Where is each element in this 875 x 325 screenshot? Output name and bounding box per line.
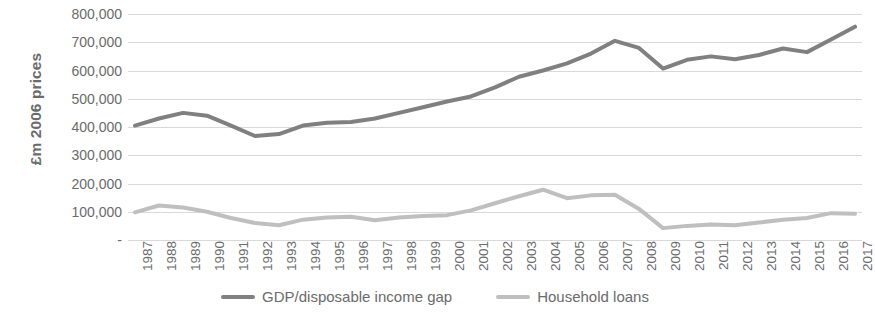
y-axis-tick-label: 800,000 [48,6,122,22]
x-axis-tick-label: 1998 [404,241,419,289]
x-axis-tick-label: 1988 [164,241,179,289]
series-lines [128,14,862,240]
x-axis-tick-labels: 1987198819891990199119921993199419951996… [128,241,862,289]
x-axis-tick-label: 1994 [308,241,323,289]
y-axis-tick-labels: -100,000200,000300,000400,000500,000600,… [48,14,122,240]
x-axis-tick-label: 2003 [524,241,539,289]
y-axis-tick-label: 200,000 [48,176,122,192]
legend-swatch-icon [496,295,530,299]
x-axis-tick-label: 1989 [188,241,203,289]
x-axis-tick-label: 1997 [380,241,395,289]
legend-label: GDP/disposable income gap [262,288,452,305]
x-axis-tick-label: 2008 [644,241,659,289]
series-line [135,27,855,136]
x-axis-tick-label: 1990 [212,241,227,289]
chart-legend: GDP/disposable income gapHousehold loans [0,288,870,305]
x-axis-tick-label: 2007 [620,241,635,289]
y-axis-title: £m 2006 prices [27,29,45,189]
x-axis-tick-label: 1992 [260,241,275,289]
x-axis-tick-label: 2001 [476,241,491,289]
x-axis-tick-label: 1991 [236,241,251,289]
y-axis-tick-label: 700,000 [48,34,122,50]
x-axis-tick-label: 2005 [572,241,587,289]
legend-entry[interactable]: GDP/disposable income gap [221,288,452,305]
plot-area [128,14,862,240]
x-axis-tick-label: 1996 [356,241,371,289]
x-axis-tick-label: 2015 [812,241,827,289]
x-axis-tick-label: 2010 [692,241,707,289]
x-axis-tick-label: 1987 [140,241,155,289]
x-axis-tick-label: 1995 [332,241,347,289]
x-axis-tick-label: 2016 [836,241,851,289]
x-axis-tick-label: 2017 [860,241,875,289]
series-line [135,190,855,228]
x-axis-tick-label: 2013 [764,241,779,289]
x-axis-tick-label: 2012 [740,241,755,289]
y-axis-tick-label: 500,000 [48,91,122,107]
y-axis-tick-label: 400,000 [48,119,122,135]
x-axis-tick-label: 2004 [548,241,563,289]
legend-entry[interactable]: Household loans [496,288,649,305]
x-axis-tick-label: 2006 [596,241,611,289]
x-axis-tick-label: 1993 [284,241,299,289]
x-axis-tick-label: 1999 [428,241,443,289]
x-axis-tick-label: 2002 [500,241,515,289]
legend-swatch-icon [221,295,255,299]
legend-label: Household loans [537,288,649,305]
x-axis-tick-label: 2011 [716,241,731,289]
x-axis-tick-label: 2000 [452,241,467,289]
y-axis-tick-label: 100,000 [48,204,122,220]
y-axis-tick-label: 600,000 [48,63,122,79]
x-axis-tick-label: 2009 [668,241,683,289]
x-axis-tick-label: 2014 [788,241,803,289]
y-axis-tick-label: - [48,232,122,248]
y-axis-tick-label: 300,000 [48,147,122,163]
